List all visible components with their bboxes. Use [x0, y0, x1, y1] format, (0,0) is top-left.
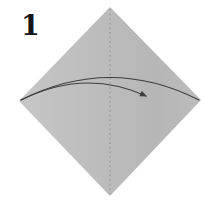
- diagram-canvas: 1: [0, 0, 219, 210]
- origami-diagram: [0, 0, 219, 210]
